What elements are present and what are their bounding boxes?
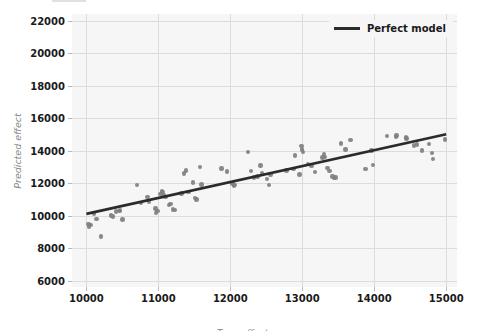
x-axis-label: True effect	[0, 327, 485, 331]
x-tick-label-11000: 11000	[141, 293, 176, 304]
y-tick-mark	[68, 21, 72, 22]
top-edge-artifact	[52, 0, 86, 2]
x-tick-label-13000: 13000	[285, 293, 320, 304]
x-tick-mark	[374, 287, 375, 291]
x-tick-label-10000: 10000	[69, 293, 104, 304]
y-tick-label-16000: 16000	[30, 113, 65, 124]
x-tick-mark	[158, 287, 159, 291]
y-tick-label-10000: 10000	[30, 210, 65, 221]
y-tick-mark	[68, 216, 72, 217]
y-tick-label-22000: 22000	[30, 15, 65, 26]
y-tick-label-14000: 14000	[30, 145, 65, 156]
chart-figure: Perfect model 10000110001200013000140001…	[0, 0, 485, 331]
legend-line-swatch	[334, 27, 360, 30]
y-tick-label-20000: 20000	[30, 48, 65, 59]
y-tick-mark	[68, 86, 72, 87]
y-tick-mark	[68, 248, 72, 249]
y-tick-label-6000: 6000	[37, 275, 65, 286]
legend: Perfect model	[329, 20, 453, 37]
perfect-model-line	[72, 14, 457, 287]
x-tick-mark	[446, 287, 447, 291]
y-tick-mark	[68, 118, 72, 119]
y-tick-label-12000: 12000	[30, 178, 65, 189]
x-tick-mark	[86, 287, 87, 291]
y-tick-mark	[68, 151, 72, 152]
legend-label: Perfect model	[367, 23, 446, 34]
x-tick-label-14000: 14000	[357, 293, 392, 304]
x-tick-mark	[230, 287, 231, 291]
y-axis-label: Predicted effect	[12, 113, 23, 189]
y-tick-mark	[68, 53, 72, 54]
plot-area: Perfect model	[72, 14, 457, 287]
y-tick-mark	[68, 281, 72, 282]
y-tick-label-18000: 18000	[30, 80, 65, 91]
y-tick-label-8000: 8000	[37, 243, 65, 254]
x-tick-label-12000: 12000	[213, 293, 248, 304]
y-tick-mark	[68, 183, 72, 184]
x-tick-mark	[302, 287, 303, 291]
x-tick-label-15000: 15000	[429, 293, 464, 304]
